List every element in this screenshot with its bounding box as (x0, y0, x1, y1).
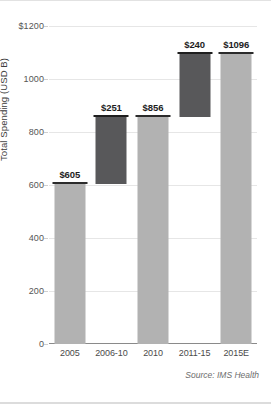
bar-slot: $251 (91, 26, 133, 344)
x-axis-tick-label: 2006-10 (95, 348, 127, 358)
bar-2006-10[interactable] (96, 117, 127, 184)
y-axis-tick-mark (44, 26, 48, 27)
bar-value-label: $251 (101, 102, 122, 113)
bar-cap (52, 182, 87, 184)
y-axis-tick-mark (44, 79, 48, 80)
source-note: Source: IMS Health (185, 370, 259, 380)
bar-value-label: $856 (143, 102, 164, 113)
y-axis-tick-mark (44, 344, 48, 345)
x-axis-tick-label: 2010 (143, 348, 163, 358)
y-axis-tick-label: $1200 (18, 21, 44, 31)
chart-figure: Total Spending (USD B) 02004006008001000… (0, 0, 271, 404)
x-axis-tick-label: 2011-15 (179, 348, 211, 358)
bar-2005[interactable] (54, 184, 85, 344)
y-axis-tick-mark (44, 291, 48, 292)
bar-cap (177, 52, 212, 54)
plot-area: 02004006008001000$1200 $605$251$856$240$… (49, 26, 257, 344)
bar-slot: $240 (174, 26, 216, 344)
bar-slot: $605 (49, 26, 91, 344)
bar-2015e[interactable] (221, 54, 252, 344)
y-axis-title: Total Spending (USD B) (0, 58, 9, 161)
bar-value-label: $605 (59, 169, 80, 180)
bar-value-label: $240 (184, 39, 205, 50)
y-axis-tick-mark (44, 185, 48, 186)
bar-slot: $1096 (215, 26, 257, 344)
y-axis-tick-mark (44, 238, 48, 239)
y-axis-tick-label: 200 (29, 286, 44, 296)
bar-2011-15[interactable] (179, 54, 210, 118)
bar-cap (219, 52, 254, 54)
bar-2010[interactable] (137, 117, 168, 344)
bar-cap (94, 115, 129, 117)
y-axis-tick-label: 600 (29, 180, 44, 190)
x-axis-tick-label: 2005 (60, 348, 80, 358)
y-axis-tick-mark (44, 132, 48, 133)
y-axis-tick-label: 1000 (24, 74, 44, 84)
y-axis-tick-label: 400 (29, 233, 44, 243)
x-axis-ticks: 20052006-1020102011-152015E (49, 348, 257, 366)
bar-slot: $856 (132, 26, 174, 344)
y-axis-tick-label: 800 (29, 127, 44, 137)
bar-cap (135, 115, 170, 117)
bar-value-label: $1096 (223, 39, 249, 50)
x-axis-tick-label: 2015E (223, 348, 249, 358)
